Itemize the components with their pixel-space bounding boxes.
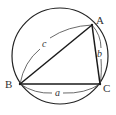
side-label-a: a [55,87,60,98]
side-c-AB [20,25,92,84]
diagram-canvas: A B C a b c [0,0,116,115]
side-label-b: b [97,48,102,59]
vertex-C-point [99,83,101,85]
vertex-B-point [19,83,21,85]
vertex-label-B: B [5,78,12,90]
side-label-c: c [42,38,47,49]
vertex-A-point [91,24,93,26]
inscribed-triangle-diagram: A B C a b c [0,0,116,115]
brace-c-upper [50,25,92,38]
vertex-label-C: C [103,82,110,94]
vertex-label-A: A [96,14,104,26]
brace-c-lower [20,49,40,84]
circumcircle [12,8,108,104]
brace-a-right [63,84,100,93]
